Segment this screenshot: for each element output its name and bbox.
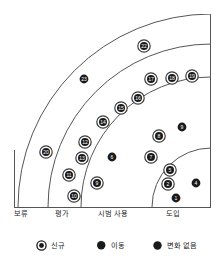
legend-label-nochange: 변화 없음 bbox=[167, 240, 197, 251]
radar-point: 9 bbox=[91, 177, 103, 189]
radar-point-label: 12 bbox=[82, 139, 88, 145]
radar-point: 22 bbox=[138, 40, 150, 52]
filled-circle-icon bbox=[152, 240, 163, 251]
radar-point: 2 bbox=[162, 178, 174, 190]
radar-point: 15 bbox=[115, 102, 127, 114]
radar-point: 6 bbox=[108, 153, 117, 163]
radar-point-label: 7 bbox=[150, 154, 153, 160]
radar-point-label: 2 bbox=[167, 181, 170, 187]
radar-point: 18 bbox=[166, 72, 178, 84]
radar-point: 1 bbox=[172, 194, 181, 203]
axis-label-0: 보류 bbox=[14, 209, 28, 219]
legend-label-new: 신규 bbox=[51, 240, 65, 251]
radar-point-label: 18 bbox=[169, 75, 175, 81]
radar-point-label: 15 bbox=[118, 105, 124, 111]
radar-point-label: 4 bbox=[195, 180, 198, 186]
radar-point-label: 10 bbox=[71, 193, 77, 199]
moon-circle-icon bbox=[96, 240, 107, 251]
radar-point-label: 5 bbox=[169, 167, 172, 173]
axis-label-2: 시범 사용 bbox=[98, 209, 129, 219]
radar-point: 23 bbox=[80, 75, 89, 84]
ring-axis-labels: 보류 평가 시범 사용 도입 bbox=[0, 209, 222, 227]
radar-rings bbox=[18, 14, 211, 207]
radar-point-label: 20 bbox=[43, 149, 49, 155]
radar-point: 14 bbox=[97, 116, 109, 128]
radar-point: 13 bbox=[76, 152, 88, 164]
radar-point-label: 11 bbox=[66, 172, 71, 178]
legend-item-new: 신규 bbox=[36, 240, 65, 251]
radar-point-label: 19 bbox=[189, 73, 195, 79]
radar-markers: 12457896910111312141516171819202223 bbox=[40, 40, 201, 203]
radar-point-label: 22 bbox=[141, 43, 147, 49]
ring-circle-icon bbox=[36, 240, 47, 251]
radar-point-label: 16 bbox=[135, 95, 141, 101]
radar-point-label: 1 bbox=[175, 195, 178, 201]
radar-point-label: 9 bbox=[181, 124, 184, 130]
radar-point-label: 23 bbox=[81, 76, 87, 82]
radar-point: 7 bbox=[145, 151, 157, 163]
radar-point: 10 bbox=[68, 190, 80, 202]
radar-point: 12 bbox=[79, 136, 91, 148]
radar-point: 11 bbox=[63, 169, 75, 181]
ring-arc-3 bbox=[48, 44, 211, 207]
radar-point: 19 bbox=[186, 70, 198, 82]
ring-arc-outer bbox=[18, 14, 211, 207]
legend-label-moved: 이동 bbox=[111, 240, 125, 251]
ring-arc-1 bbox=[152, 148, 211, 207]
radar-point-label: 13 bbox=[79, 155, 85, 161]
axis-label-1: 평가 bbox=[55, 209, 69, 219]
legend-item-nochange: 변화 없음 bbox=[152, 240, 197, 251]
radar-point: 20 bbox=[40, 146, 52, 158]
radar-point-label: 17 bbox=[148, 76, 154, 82]
radar-plot-area: 12457896910111312141516171819202223 bbox=[0, 0, 222, 279]
radar-point: 17 bbox=[145, 73, 157, 85]
radar-point: 8 bbox=[153, 130, 165, 142]
radar-point-label: 8 bbox=[158, 133, 161, 139]
axis-label-3: 도입 bbox=[166, 209, 180, 219]
radar-point-label: 9 bbox=[96, 180, 99, 186]
chart-legend: 신규 이동 변화 없음 bbox=[0, 240, 222, 262]
radar-chart-figure: 12457896910111312141516171819202223 보류 평… bbox=[0, 0, 222, 279]
radar-point-label: 6 bbox=[111, 154, 114, 160]
radar-point: 16 bbox=[132, 92, 144, 104]
radar-point: 4 bbox=[192, 179, 201, 188]
radar-point: 9 bbox=[178, 123, 187, 133]
radar-point: 5 bbox=[164, 164, 176, 176]
legend-item-moved: 이동 bbox=[96, 240, 125, 251]
radar-point-label: 14 bbox=[100, 119, 106, 125]
